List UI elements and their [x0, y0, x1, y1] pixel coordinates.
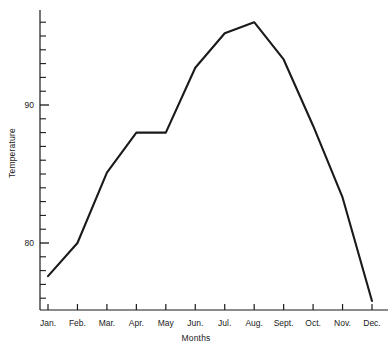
line-chart: Temperature Months Jan.Feb.Mar.Apr.MayJu…: [0, 0, 392, 351]
x-axis-tick-label: Jan.: [40, 318, 56, 328]
x-axis-tick-label: Aug.: [245, 318, 263, 328]
x-axis-tick-label: Apr.: [129, 318, 144, 328]
y-axis-ticks: [40, 22, 49, 298]
x-axis-tick-label: Sept.: [274, 318, 294, 328]
x-axis-tick-label: Jun.: [187, 318, 203, 328]
y-axis-title: Temperature: [7, 117, 17, 189]
x-axis-tick-label: Jul.: [218, 318, 231, 328]
axis-lines: [40, 10, 388, 310]
x-axis-tick-label: Mar.: [99, 318, 116, 328]
x-axis-title: Months: [0, 333, 392, 343]
x-axis-tick-label: Oct.: [305, 318, 321, 328]
plot-area: [0, 0, 392, 351]
temperature-line-series: [48, 22, 372, 301]
y-axis-tick-label: 90: [12, 100, 34, 110]
x-axis-tick-label: Nov.: [334, 318, 351, 328]
x-axis-tick-label: Dec.: [363, 318, 380, 328]
x-axis-tick-label: Feb.: [69, 318, 86, 328]
y-axis-tick-label: 80: [12, 238, 34, 248]
x-axis-tick-label: May: [158, 318, 174, 328]
x-axis-ticks: [48, 304, 372, 310]
